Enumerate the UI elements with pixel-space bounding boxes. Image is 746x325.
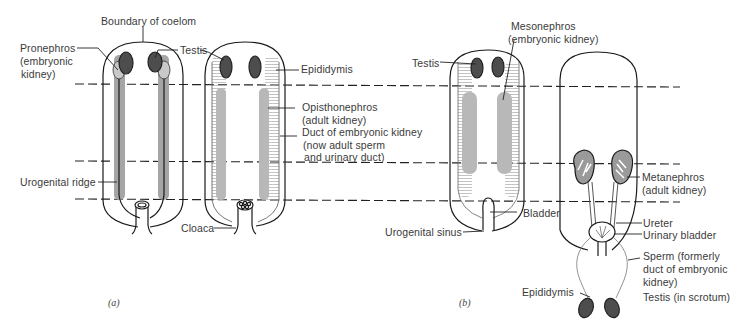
label-sperm-sub2: kidney) xyxy=(643,276,678,288)
label-urinary-bladder: Urinary bladder xyxy=(643,229,716,241)
label-testis-scrotum: Testis (in scrotum) xyxy=(643,291,730,303)
label-ureter: Ureter xyxy=(643,217,673,229)
label-duct-sub1: (now adult sperm xyxy=(303,139,385,151)
label-boundary-of-coelom: Boundary of coelom xyxy=(101,15,196,27)
label-opisthonephros: Opisthonephros xyxy=(302,101,378,113)
panel-b-adult xyxy=(560,52,637,320)
metanephros-kidneys xyxy=(574,150,633,184)
panel-a-adult xyxy=(205,42,285,234)
caption-a: (a) xyxy=(108,297,120,308)
label-duct-embryonic-kidney: Duct of embryonic kidney xyxy=(302,126,422,138)
label-metanephros-sub: (adult kidney) xyxy=(642,184,706,196)
label-pronephros-sub1: (embryonic xyxy=(20,55,73,67)
panel-a-embryo xyxy=(103,42,183,234)
label-metanephros: Metanephros xyxy=(642,171,704,183)
label-pronephros-sub2: kidney) xyxy=(21,68,56,80)
label-opisthonephros-sub: (adult kidney) xyxy=(302,114,366,126)
label-urogenital-sinus: Urogenital sinus xyxy=(385,226,462,238)
label-urogenital-ridge: Urogenital ridge xyxy=(20,176,96,188)
caption-b: (b) xyxy=(459,297,471,308)
panel-b-embryo xyxy=(450,50,524,231)
label-mesonephros-sub: (embryonic kidney) xyxy=(508,33,599,45)
label-epididymis-b: Epididymis xyxy=(522,286,574,298)
label-duct-sub2: and urinary duct) xyxy=(304,151,385,163)
label-sperm-sub1: duct of embryonic xyxy=(643,263,728,275)
label-cloaca: Cloaca xyxy=(181,222,214,234)
label-bladder: Bladder xyxy=(523,207,560,219)
label-epididymis-a: Epididymis xyxy=(301,63,353,75)
label-sperm: Sperm (formerly xyxy=(643,250,720,262)
label-testis-b: Testis xyxy=(412,57,439,69)
label-testis-a: Testis xyxy=(180,44,207,56)
label-mesonephros: Mesonephros xyxy=(511,20,576,32)
label-pronephros: Pronephros xyxy=(20,42,75,54)
